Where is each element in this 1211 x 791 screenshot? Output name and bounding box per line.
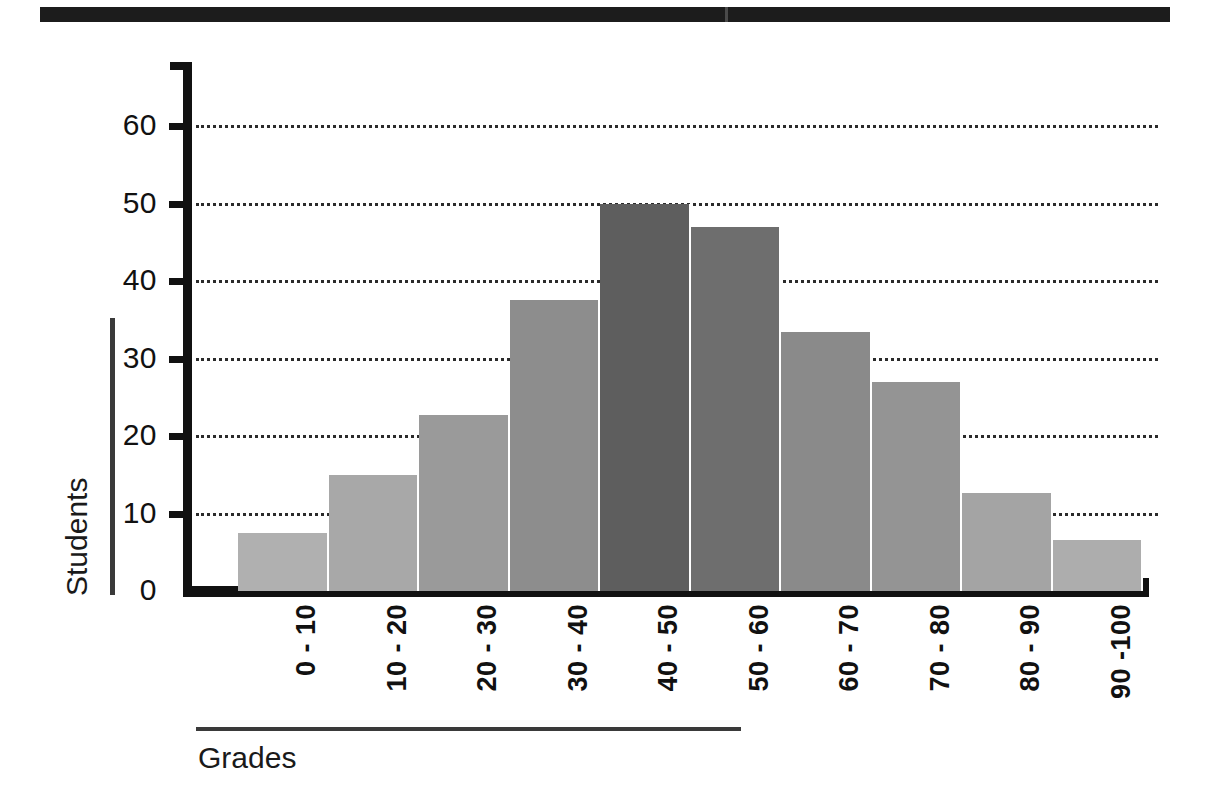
x-axis-category-label: 90 -100 xyxy=(1108,604,1135,699)
bar xyxy=(419,415,510,591)
y-axis-top-cap xyxy=(170,62,192,70)
bar xyxy=(781,332,872,591)
x-axis-category-label: 0 - 10 xyxy=(293,604,320,676)
x-axis-category-label: 60 - 70 xyxy=(836,604,863,692)
x-axis-category-label: 50 - 60 xyxy=(746,604,773,692)
bar xyxy=(691,227,782,591)
y-axis-title-rule xyxy=(110,318,115,595)
bar xyxy=(510,300,601,591)
x-axis-category-label: 40 - 50 xyxy=(655,604,682,692)
y-axis-tick xyxy=(169,511,192,518)
y-axis-tick-label: 0 xyxy=(95,575,157,605)
x-axis-category-label: 70 - 80 xyxy=(927,604,954,692)
bar xyxy=(238,533,329,591)
y-axis-tick-label: 50 xyxy=(95,188,157,218)
bar xyxy=(600,204,691,592)
y-axis-tick-label: 10 xyxy=(95,498,157,528)
x-axis-title: Grades xyxy=(198,742,296,774)
y-axis-tick-label: 30 xyxy=(95,343,157,373)
x-axis-title-rule xyxy=(196,727,741,731)
y-axis-tick-label: 40 xyxy=(95,265,157,295)
y-axis-tick xyxy=(169,278,192,285)
x-axis-category-label: 10 - 20 xyxy=(384,604,411,692)
x-axis-category-label: 30 - 40 xyxy=(565,604,592,692)
y-axis-tick-label: 20 xyxy=(95,420,157,450)
y-axis-tick xyxy=(169,201,192,208)
y-axis-tick xyxy=(169,123,192,130)
bar xyxy=(329,475,420,591)
x-axis-category-label: 80 - 90 xyxy=(1017,604,1044,692)
bar-series xyxy=(238,62,1143,591)
y-axis-title: Students xyxy=(62,478,92,596)
bar xyxy=(962,493,1053,591)
histogram-chart: 0102030405060 0 - 1010 - 2020 - 3030 - 4… xyxy=(0,0,1211,791)
bar xyxy=(1053,540,1144,591)
bar xyxy=(872,382,963,591)
x-axis-category-label: 20 - 30 xyxy=(474,604,501,692)
y-axis-tick-label: 60 xyxy=(95,110,157,140)
y-axis-tick xyxy=(169,356,192,363)
y-axis-tick xyxy=(169,433,192,440)
